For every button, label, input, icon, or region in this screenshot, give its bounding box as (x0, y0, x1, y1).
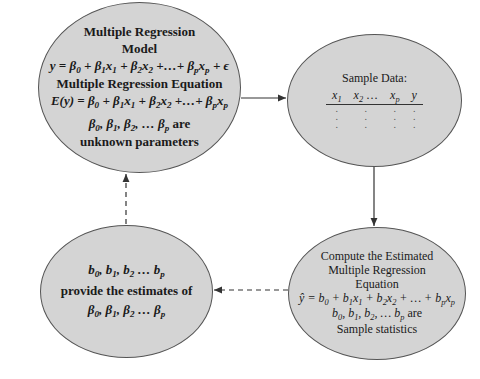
cell: . (348, 121, 385, 129)
compute-estimated-equation-node: Compute the Estimated Multiple Regressio… (288, 227, 466, 360)
column-x2: x2 … (348, 88, 385, 104)
column-x1: x1 (326, 88, 348, 104)
cell: . (326, 121, 348, 129)
estimated-equation: ŷ = b0 + b1x1 + b2x2 + … + bpxp (299, 292, 455, 308)
model-title-line2: Model (122, 42, 157, 57)
cell: . (406, 121, 423, 129)
sample-stats-line2: Sample statistics (337, 323, 417, 337)
sample-data-title: Sample Data: (342, 72, 407, 86)
unknown-params-line2: unknown parameters (80, 135, 199, 150)
sample-data-node: Sample Data: x1 x2 … xp y .... .... .... (287, 34, 462, 167)
equation-title: Multiple Regression Equation (57, 77, 223, 92)
expected-value-equation: E(y) = β0 + β1x1 + β2x2 +…+ βpxp (51, 94, 228, 111)
unknown-params-line1: β0, β1, β2, … βp are (89, 117, 191, 134)
column-xp: xp (384, 88, 406, 104)
estimates-node: b0, b1, b2 … bp provide the estimates of… (40, 225, 213, 358)
cell: . (384, 121, 406, 129)
sample-stats-line1: b0, b1, b2, … bp are (332, 307, 422, 323)
sample-data-table: x1 x2 … xp y .... .... .... (326, 88, 423, 129)
model-title-line1: Multiple Regression (84, 25, 195, 40)
estimates-line2: provide the estimates of (61, 284, 193, 299)
estimates-line1: b0, b1, b2 … bp (88, 263, 165, 280)
compute-line2: Multiple Regression (328, 264, 426, 278)
compute-line3: Equation (355, 278, 398, 292)
estimates-line3: β0, β1, β2 … βp (88, 303, 165, 320)
population-model-node: Multiple Regression Model y = β0 + β1x1 … (38, 2, 241, 173)
column-y: y (406, 88, 423, 104)
model-equation: y = β0 + β1x1 + β2x2 +…+ βpxp + ϵ (50, 59, 229, 76)
compute-line1: Compute the Estimated (321, 250, 434, 264)
